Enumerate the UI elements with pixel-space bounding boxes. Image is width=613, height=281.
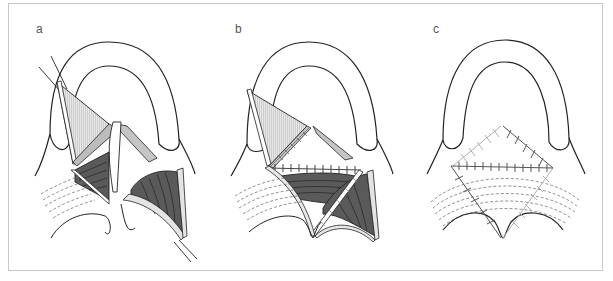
panel-b: b xyxy=(207,4,407,272)
panel-c-illustration xyxy=(403,4,603,272)
panel-c: c xyxy=(403,4,603,272)
right-nasal-flap xyxy=(313,126,353,160)
left-mucoperiosteal-flap xyxy=(247,90,307,166)
figure-frame: a xyxy=(8,3,603,271)
panel-a: a xyxy=(9,4,209,272)
alveolar-arch xyxy=(427,40,585,174)
uvula-halves xyxy=(51,204,135,238)
panel-b-illustration xyxy=(207,4,407,272)
dashed-muscle-lines xyxy=(431,178,579,226)
panel-a-illustration xyxy=(9,4,209,272)
suture-horizontal xyxy=(267,164,361,174)
right-nasal-flap xyxy=(117,124,157,162)
uvula xyxy=(443,213,563,238)
